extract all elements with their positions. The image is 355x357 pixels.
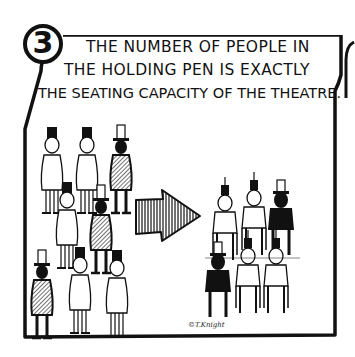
person-icon xyxy=(264,230,288,313)
person-icon xyxy=(268,180,294,255)
person-icon xyxy=(90,185,111,273)
person-icon xyxy=(31,250,52,338)
person-icon xyxy=(106,250,127,336)
person-icon xyxy=(56,182,77,268)
illustration xyxy=(0,0,355,357)
artist-signature: ©T.Knight xyxy=(188,321,225,329)
person-icon xyxy=(110,125,131,213)
person-icon xyxy=(205,242,231,317)
theatre-seated-people xyxy=(205,172,300,317)
arrow-right-icon xyxy=(136,190,200,241)
holding-pen-people xyxy=(31,125,131,338)
person-icon xyxy=(236,230,260,313)
